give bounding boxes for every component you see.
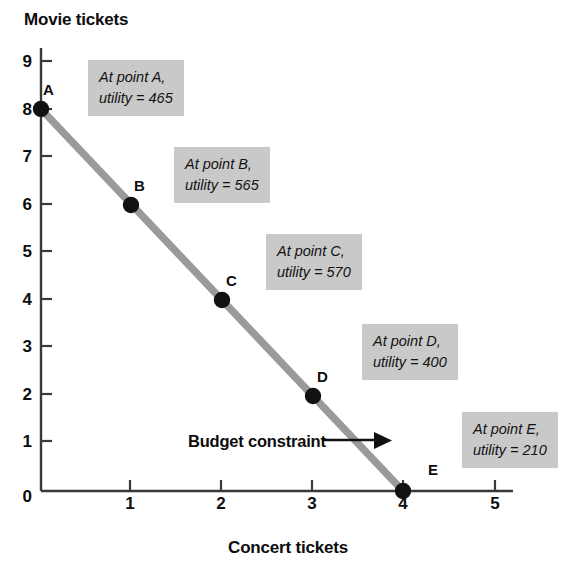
callout-a-line2: utility = 465	[99, 88, 173, 109]
data-point-E[interactable]	[395, 483, 411, 499]
point-label-C: C	[226, 272, 237, 289]
callout-d-line2: utility = 400	[373, 352, 447, 373]
point-label-A: A	[43, 81, 54, 98]
callout-d-line1: At point D,	[373, 331, 447, 352]
callout-point-A: At point A, utility = 465	[88, 60, 184, 116]
x-axis-ticks	[130, 480, 495, 491]
callout-b-line2: utility = 565	[185, 175, 259, 196]
data-point-C[interactable]	[214, 292, 230, 308]
callout-c-line1: At point C,	[277, 241, 351, 262]
callout-a-line1: At point A,	[99, 67, 173, 88]
point-label-B: B	[134, 177, 145, 194]
callout-e-line1: At point E,	[473, 419, 547, 440]
data-point-A[interactable]	[33, 101, 49, 117]
callout-b-line1: At point B,	[185, 154, 259, 175]
callout-point-D: At point D, utility = 400	[362, 324, 458, 380]
callout-point-C: At point C, utility = 570	[266, 234, 362, 290]
point-label-E: E	[428, 461, 438, 478]
point-label-D: D	[317, 368, 328, 385]
callout-e-line2: utility = 210	[473, 440, 547, 461]
budget-constraint-annotation: Budget constraint	[188, 432, 326, 451]
callout-c-line2: utility = 570	[277, 262, 351, 283]
callout-point-E: At point E, utility = 210	[462, 412, 558, 468]
budget-constraint-chart: Movie tickets Concert tickets 9 8 7 6 5 …	[0, 0, 576, 566]
data-point-B[interactable]	[123, 197, 139, 213]
callout-point-B: At point B, utility = 565	[174, 147, 270, 203]
data-point-D[interactable]	[305, 388, 321, 404]
